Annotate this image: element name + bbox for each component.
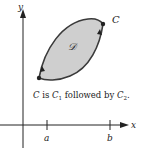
x-axis-arrow-icon xyxy=(120,122,129,128)
caption: C is C1 followed by C2. xyxy=(33,90,130,101)
end-point xyxy=(101,22,105,26)
curve-label: C xyxy=(112,14,120,25)
tick-a-label: a xyxy=(44,133,49,143)
caption-followed-by: followed by xyxy=(62,90,117,100)
diagram-canvas: y x a b 𝒟 C C is C1 followed by C2. xyxy=(0,0,141,156)
start-point xyxy=(37,76,41,80)
caption-period: . xyxy=(127,90,130,100)
tick-b-label: b xyxy=(107,133,113,143)
caption-is: is xyxy=(40,90,52,100)
y-axis-label: y xyxy=(17,2,24,12)
x-axis-label: x xyxy=(131,120,136,130)
